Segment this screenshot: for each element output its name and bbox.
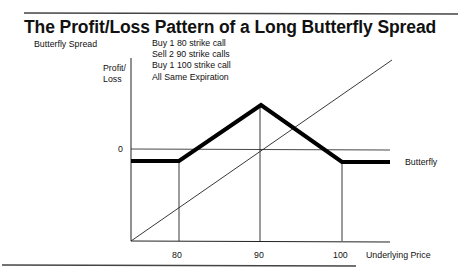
note-line: Buy 1 80 strike call bbox=[152, 38, 231, 49]
diagonal-line bbox=[131, 60, 392, 241]
note-line: All Same Expiration bbox=[152, 72, 231, 83]
subtitle: Butterfly Spread bbox=[34, 39, 97, 49]
note-line: Buy 1 100 strike call bbox=[152, 60, 231, 71]
diagram-title: The Profit/Loss Pattern of a Long Butter… bbox=[24, 17, 436, 38]
x-tick-80: 80 bbox=[172, 250, 182, 260]
note-line: Sell 2 90 strike calls bbox=[152, 49, 231, 60]
x-tick-90: 90 bbox=[254, 250, 264, 260]
zero-line bbox=[131, 149, 390, 150]
top-rule bbox=[24, 13, 458, 14]
zero-label: 0 bbox=[118, 144, 123, 154]
x-tick-100: 100 bbox=[333, 250, 348, 260]
strategy-notes: Buy 1 80 strike call Sell 2 90 strike ca… bbox=[152, 38, 231, 83]
x-axis-label: Underlying Price bbox=[366, 250, 431, 260]
y-axis-label: Profit/ Loss bbox=[103, 63, 126, 85]
bottom-rule bbox=[2, 265, 356, 266]
y-axis-label-line1: Profit/ bbox=[103, 63, 126, 74]
series-label-butterfly: Butterfly bbox=[405, 157, 437, 167]
butterfly-payoff-line bbox=[131, 105, 390, 162]
y-axis-label-line2: Loss bbox=[103, 74, 126, 85]
x-axis bbox=[131, 241, 390, 242]
